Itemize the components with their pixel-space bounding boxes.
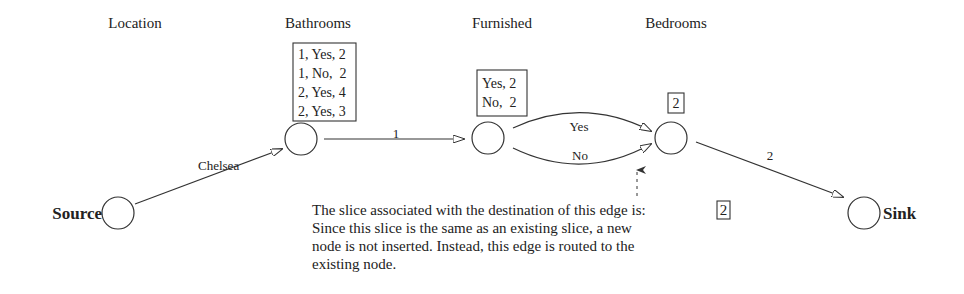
bathrooms-slice-row: 2, Yes, 4 <box>298 85 346 100</box>
bathrooms-slice-row: 1, Yes, 2 <box>298 47 346 62</box>
column-header-bathrooms: Bathrooms <box>285 15 351 31</box>
sink-node <box>848 197 880 229</box>
annotation-note: The slice associated with the destinatio… <box>312 201 730 272</box>
bathrooms-slice-box: 1, Yes, 2 1, No, 2 2, Yes, 4 2, Yes, 3 <box>293 43 356 121</box>
source-node <box>102 197 134 229</box>
edge-label-1: 1 <box>393 126 400 141</box>
annotation-line: node is not inserted. Instead, this edge… <box>312 238 635 254</box>
source-label: Source <box>52 204 102 223</box>
annotation-line: The slice associated with the destinatio… <box>312 202 646 218</box>
column-header-location: Location <box>108 15 162 31</box>
column-header-bedrooms: Bedrooms <box>645 15 707 31</box>
edge-label-yes: Yes <box>570 119 589 134</box>
edge-label-chelsea: Chelsea <box>198 158 239 173</box>
bathrooms-slice-row: 2, Yes, 3 <box>298 104 346 119</box>
bathrooms-node <box>285 123 317 155</box>
furnished-slice-row: Yes, 2 <box>482 76 516 91</box>
bedrooms-slice-box: 2 <box>668 93 684 113</box>
sink-label: Sink <box>883 204 917 223</box>
annotation-slice-value: 2 <box>720 202 728 218</box>
column-header-furnished: Furnished <box>472 15 533 31</box>
edge-label-2: 2 <box>767 148 774 163</box>
furnished-slice-box: Yes, 2 No, 2 <box>477 70 527 116</box>
slice-graph-diagram: Location Bathrooms Furnished Bedrooms 1,… <box>0 0 964 294</box>
bedrooms-node <box>655 122 687 154</box>
bathrooms-slice-row: 1, No, 2 <box>298 66 347 81</box>
annotation-line: Since this slice is the same as an exist… <box>312 220 632 236</box>
bedrooms-slice-value: 2 <box>673 96 680 111</box>
edge-label-no: No <box>572 148 588 163</box>
furnished-slice-row: No, 2 <box>482 95 517 110</box>
annotation-line: existing node. <box>312 256 396 272</box>
furnished-node <box>472 122 504 154</box>
